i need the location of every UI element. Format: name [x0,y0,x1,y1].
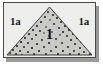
figure-root: 1a 1a 1 [0,0,103,65]
diagram-frame: 1a 1a 1 [3,2,96,58]
unit-label-left: 1a [10,16,21,27]
unit-label-right: 1a [78,16,89,27]
unit-label-center: 1 [4,28,95,42]
